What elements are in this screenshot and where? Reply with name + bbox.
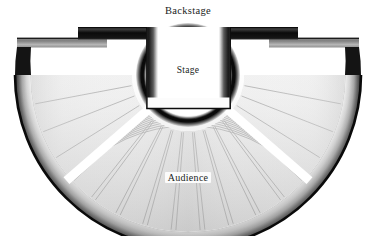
audience-label-text: Audience: [165, 172, 212, 183]
stage-label: Stage: [0, 65, 376, 75]
backstage-band-left: [78, 27, 158, 40]
top-rim-strip-right: [269, 39, 359, 48]
theater-plan-svg: [0, 0, 376, 236]
audience-label: Audience: [0, 172, 376, 183]
theater-floor-plan-diagram: Backstage Stage Audience: [0, 0, 376, 236]
top-rim-strip-left: [17, 39, 107, 48]
stage-wall-bottom: [147, 98, 231, 110]
stage-floor: [158, 27, 219, 98]
backstage-label: Backstage: [0, 5, 376, 16]
